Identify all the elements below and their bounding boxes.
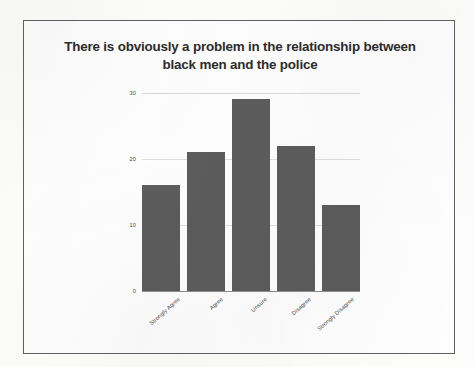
x-axis-tick-label: Agree <box>209 296 225 311</box>
bar-unsure[interactable] <box>232 99 270 291</box>
y-axis-tick-label: 0 <box>133 288 136 294</box>
bar-slot <box>232 86 270 291</box>
x-axis-tick-label: Unsure <box>250 296 268 313</box>
x-axis-tick-label-text: Unsure <box>250 296 268 313</box>
x-axis-tick-label-text: Strongly Agree <box>148 296 181 326</box>
x-axis-labels: Strongly AgreeAgreeUnsureDisagreeStrongl… <box>142 294 360 364</box>
bar-strongly-disagree[interactable] <box>322 205 360 291</box>
y-axis-tick-label: 10 <box>129 222 136 228</box>
bar-slot <box>142 86 180 291</box>
bar-series <box>142 86 360 291</box>
bar-strongly-agree[interactable] <box>142 185 180 291</box>
x-axis-tick-label-text: Agree <box>209 296 225 311</box>
x-axis-tick-label-text: Strongly Disagree <box>316 296 355 332</box>
bar-agree[interactable] <box>187 152 225 291</box>
x-axis-tick-label-text: Disagree <box>290 296 312 316</box>
y-axis-tick-label: 20 <box>129 156 136 162</box>
bar-slot <box>187 86 225 291</box>
bar-disagree[interactable] <box>277 146 315 291</box>
x-axis-tick-label: Disagree <box>290 296 312 316</box>
bar-slot <box>322 86 360 291</box>
x-axis-tick-label: Strongly Agree <box>148 296 181 326</box>
bar-slot <box>277 86 315 291</box>
slide-frame: There is obviously a problem in the rela… <box>23 20 455 354</box>
plot-area: 3020100 Strongly AgreeAgreeUnsureDisagre… <box>142 86 360 291</box>
bar-chart: 3020100 Strongly AgreeAgreeUnsureDisagre… <box>24 21 456 355</box>
x-axis-baseline <box>142 291 360 292</box>
y-axis-tick-label: 30 <box>129 90 136 96</box>
x-axis-tick-label: Strongly Disagree <box>316 296 355 332</box>
